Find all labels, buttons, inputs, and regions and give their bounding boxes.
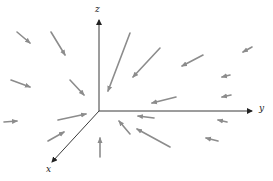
vector-arrow-icon <box>11 80 30 87</box>
vector-arrow-icon <box>222 95 231 97</box>
vector-arrow-icon <box>218 120 227 122</box>
vector-arrow-icon <box>108 33 130 91</box>
vector-field-diagram: z y x <box>0 0 273 181</box>
vector-arrow-icon <box>17 32 30 43</box>
vector-arrow-icon <box>243 47 252 52</box>
vector-arrow-icon <box>51 32 65 55</box>
y-axis-label: y <box>259 104 264 113</box>
x-axis <box>52 111 99 162</box>
vector-arrow-icon <box>152 97 176 103</box>
diagram-canvas <box>0 0 273 181</box>
vector-arrow-icon <box>4 121 17 122</box>
vector-arrow-icon <box>137 129 170 147</box>
x-axis-label: x <box>46 165 51 174</box>
vector-arrow-icon <box>133 48 160 77</box>
vector-arrow-icon <box>70 80 84 95</box>
z-axis-label: z <box>95 5 100 14</box>
vector-arrows <box>4 32 252 157</box>
vector-arrow-icon <box>58 114 86 120</box>
vector-arrow-icon <box>182 55 203 66</box>
vector-arrow-icon <box>138 116 154 118</box>
vector-arrow-icon <box>48 132 64 141</box>
vector-arrow-icon <box>222 75 230 77</box>
vector-arrow-icon <box>119 121 130 134</box>
vector-arrow-icon <box>206 138 218 141</box>
